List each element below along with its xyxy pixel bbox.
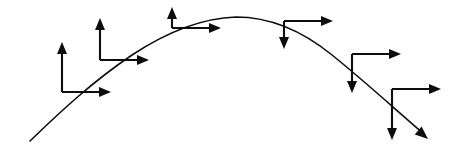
projectile-diagram bbox=[0, 0, 464, 154]
trajectory-canvas bbox=[0, 0, 464, 154]
